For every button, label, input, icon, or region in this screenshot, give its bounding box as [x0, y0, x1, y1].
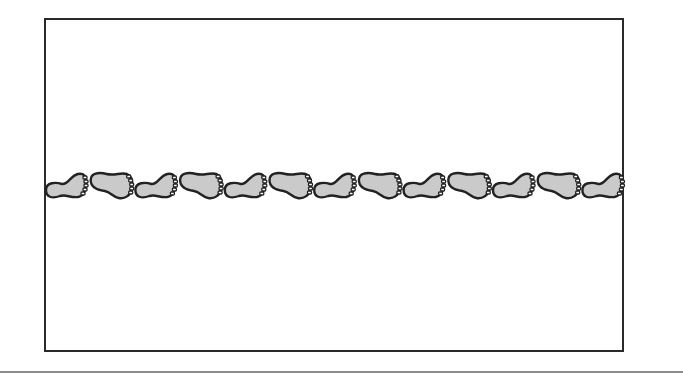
footprint-trail — [44, 166, 626, 206]
bottom-divider — [0, 371, 683, 373]
footprint-icon — [538, 173, 581, 198]
footprint-icon — [180, 173, 223, 198]
footprint-icon — [314, 174, 356, 198]
footprint-icon — [493, 174, 535, 198]
footprint-icon — [582, 174, 624, 198]
footprint-icon — [448, 173, 491, 198]
footprint-icon — [359, 173, 402, 198]
footprint-icon — [91, 173, 134, 198]
footprint-icon — [46, 174, 88, 198]
footprint-icon — [135, 174, 177, 198]
footprint-icon — [225, 174, 267, 198]
footprint-icon — [270, 173, 313, 198]
footprint-icon — [404, 174, 446, 198]
